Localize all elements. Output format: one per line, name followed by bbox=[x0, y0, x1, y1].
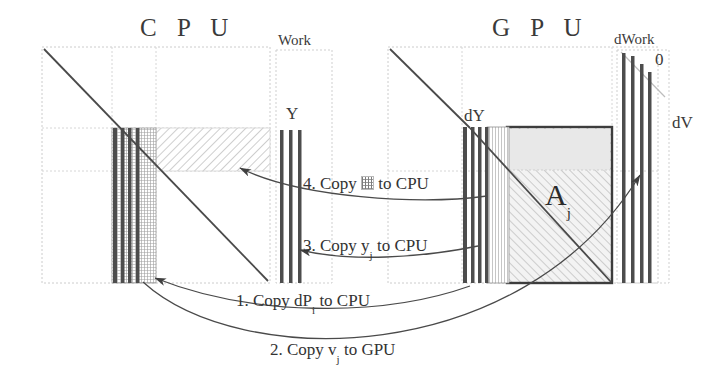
step-3-number: 3. bbox=[303, 236, 316, 255]
step-1-dest: to CPU bbox=[319, 291, 370, 310]
step-1-subscript: i bbox=[312, 304, 315, 316]
cpu-grid-block bbox=[112, 128, 156, 283]
step-1-operand: dP bbox=[294, 291, 312, 310]
step-4-label: 4. Copy to CPU bbox=[303, 175, 429, 192]
gpu-zero-label: 0 bbox=[655, 51, 664, 68]
gpu-diagonal-upper bbox=[390, 49, 470, 128]
step-2-dest: to GPU bbox=[344, 340, 395, 359]
step-3-operand: y bbox=[361, 236, 370, 255]
gpu-vector-label: dY bbox=[464, 107, 485, 124]
step-3-verb: Copy bbox=[320, 236, 357, 255]
step-1-label: 1. Copy dPi to CPU bbox=[236, 292, 370, 312]
gpu-matrix-subscript: j bbox=[567, 205, 571, 221]
diagram-vector-layer bbox=[0, 0, 724, 391]
cpu-vector-label: Y bbox=[286, 105, 298, 122]
step-2-label: 2. Copy vj to GPU bbox=[270, 341, 395, 361]
hatched-block-swatch-icon bbox=[361, 176, 374, 190]
step-3-dest: to CPU bbox=[377, 236, 428, 255]
step-3-subscript: j bbox=[370, 249, 373, 261]
gpu-matrix-label: Aj bbox=[545, 180, 571, 215]
cpu-work-bars bbox=[280, 130, 302, 283]
cpu-work-label: Work bbox=[278, 33, 311, 48]
gpu-column-bars bbox=[463, 127, 489, 283]
step-2-number: 2. bbox=[270, 340, 283, 359]
gpu-dwork-bars bbox=[622, 53, 652, 283]
step-4-dest: to CPU bbox=[378, 174, 429, 193]
cpu-result-band bbox=[156, 128, 270, 171]
step-1-verb: Copy bbox=[253, 291, 290, 310]
gpu-matrix-letter: A bbox=[545, 178, 567, 211]
gpu-dv-label: dV bbox=[672, 114, 693, 131]
gpu-dwork-label: dWork bbox=[614, 32, 654, 47]
step-2-subscript: j bbox=[337, 353, 340, 365]
step-4-number: 4. bbox=[303, 174, 316, 193]
cpu-title: C P U bbox=[140, 15, 235, 40]
gpu-title: G P U bbox=[492, 15, 589, 40]
step-3-label: 3. Copy yj to CPU bbox=[303, 237, 427, 257]
gpu-matrix-top-strip bbox=[509, 129, 610, 170]
step-2-operand: v bbox=[328, 340, 337, 359]
step-1-number: 1. bbox=[236, 291, 249, 310]
step-4-verb: Copy bbox=[320, 174, 357, 193]
step-2-verb: Copy bbox=[287, 340, 324, 359]
diagram-canvas: C P U G P U Work Y dWork 0 dY dV Aj 4. C… bbox=[0, 0, 724, 391]
